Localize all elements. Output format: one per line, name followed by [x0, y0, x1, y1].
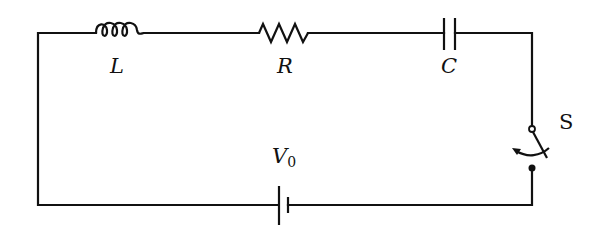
switch	[512, 126, 549, 172]
resistor-label: R	[276, 54, 293, 78]
resistor-zigzag	[259, 24, 308, 42]
wire-c-s	[455, 33, 532, 126]
battery-label: V0	[272, 144, 296, 170]
circuit-diagram: L R C S V0	[0, 0, 607, 228]
capacitor	[444, 18, 455, 50]
wire-s-v	[288, 168, 532, 205]
inductor-coil	[96, 23, 144, 36]
switch-contact-top	[529, 126, 535, 132]
resistor	[259, 24, 308, 42]
battery	[279, 186, 288, 225]
capacitor-label: C	[441, 54, 457, 78]
wire-left	[38, 33, 277, 205]
switch-label: S	[559, 110, 573, 134]
battery-label-subscript: 0	[287, 154, 296, 170]
inductor-label: L	[109, 54, 124, 78]
inductor	[96, 23, 144, 36]
